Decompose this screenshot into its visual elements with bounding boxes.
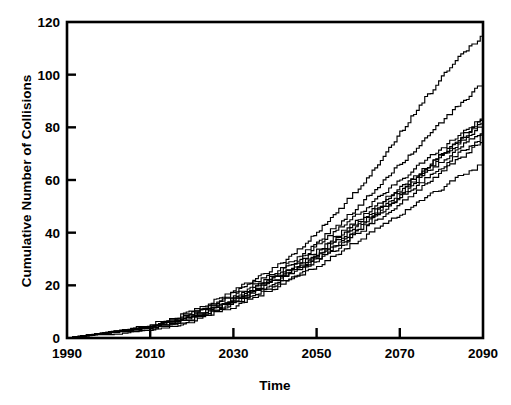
x-tick-label: 1990 [52, 346, 82, 361]
y-tick-label: 100 [37, 68, 60, 83]
series-line [67, 36, 483, 338]
x-tick-label: 2010 [135, 346, 165, 361]
x-tick-label-group: 199020102030205020702090 [52, 346, 498, 361]
series-line [67, 118, 483, 338]
x-axis-title: Time [259, 378, 291, 393]
y-tick-label: 80 [45, 120, 60, 135]
x-axis-title-group: Time [259, 378, 291, 393]
x-tick-mark-group [150, 328, 400, 338]
x-tick-label: 2090 [468, 346, 498, 361]
y-tick-mark-group [67, 75, 76, 286]
series-group [67, 36, 483, 338]
y-tick-label: 40 [45, 226, 60, 241]
y-tick-label: 60 [45, 173, 60, 188]
x-tick-label: 2070 [385, 346, 415, 361]
y-tick-label-group: 020406080100120 [37, 15, 60, 346]
x-tick-label: 2030 [218, 346, 248, 361]
series-line [67, 124, 483, 338]
series-line [67, 128, 483, 338]
series-line [67, 85, 483, 338]
y-tick-label: 120 [37, 15, 60, 30]
series-line [67, 127, 483, 338]
x-tick-label: 2050 [302, 346, 332, 361]
y-axis-title-group: Cumulative Number of Collisions [19, 75, 34, 287]
y-tick-label: 20 [45, 278, 60, 293]
series-line [67, 139, 483, 337]
series-line [67, 133, 483, 338]
y-axis-title: Cumulative Number of Collisions [19, 75, 34, 287]
series-line [67, 115, 483, 338]
collisions-chart-figure: Cumulative Number of Collisions Time 020… [0, 0, 511, 405]
y-tick-label: 0 [52, 331, 60, 346]
plot-frame [67, 22, 483, 338]
chart-canvas: Cumulative Number of Collisions Time 020… [0, 0, 511, 405]
